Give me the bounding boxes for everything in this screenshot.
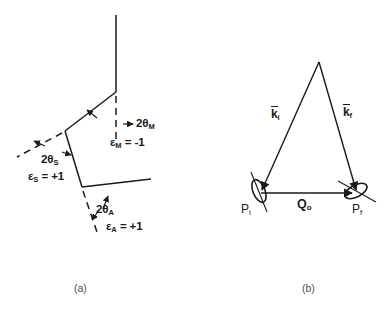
analyzer-to-detector-arm <box>82 179 151 187</box>
label-point-final: Pf <box>352 203 362 217</box>
k-initial-vector <box>262 62 319 190</box>
panel-b-geometry <box>249 62 376 212</box>
label-point-initial: Pi <box>241 203 251 217</box>
label-epsilon-analyzer: εA = +1 <box>106 221 143 233</box>
figure-root: · · · · <box>0 0 387 317</box>
monochromator-to-sample-arm <box>65 92 116 131</box>
label-two-theta-analyzer: 2θA <box>96 204 114 216</box>
k-final-vector <box>319 62 356 190</box>
caption-panel-a: (a) <box>74 283 87 294</box>
label-two-theta-monochromator: 2θM <box>136 118 155 130</box>
label-epsilon-monochromator: εM = -1 <box>110 137 144 149</box>
caption-panel-b: (b) <box>302 283 315 294</box>
label-k-final: kf <box>343 104 352 119</box>
analyzer-reference-dashed-line <box>83 191 97 232</box>
panel-a-geometry <box>17 15 151 232</box>
label-k-initial: ki <box>271 106 280 121</box>
label-two-theta-sample: 2θS <box>41 154 58 166</box>
label-epsilon-sample: εS = +1 <box>28 171 64 183</box>
sample-to-analyzer-arm <box>65 131 82 187</box>
angle-arrow-sample-right <box>62 152 71 155</box>
label-q-vector: Qo <box>297 198 311 212</box>
